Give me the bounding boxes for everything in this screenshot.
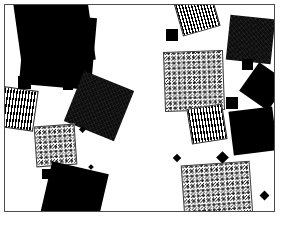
marker-square xyxy=(166,29,178,41)
square-speckle xyxy=(163,50,225,112)
marker-square xyxy=(242,59,253,70)
square-stripe xyxy=(4,85,39,131)
square-speckle xyxy=(181,161,255,212)
marker-square xyxy=(226,97,238,109)
marker-square xyxy=(16,15,21,20)
square-dark-tex xyxy=(226,15,275,64)
square-stripe xyxy=(186,103,227,144)
plot-frame xyxy=(4,4,275,212)
marker-square xyxy=(42,169,52,179)
figure-canvas xyxy=(0,0,281,228)
square-solid xyxy=(228,106,275,155)
marker-square xyxy=(173,154,181,162)
square-speckle xyxy=(34,124,78,168)
marker-square xyxy=(63,80,73,90)
marker-square xyxy=(18,76,31,89)
marker-square xyxy=(260,191,270,201)
square-stripe xyxy=(172,4,220,37)
